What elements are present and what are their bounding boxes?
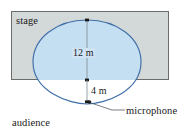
dimension-label-12m: 12 m [72, 48, 95, 58]
microphone-leader-line [91, 103, 126, 110]
stage-label: stage [16, 16, 38, 27]
audience-label: audience [12, 118, 50, 129]
dimension-tick-top [85, 19, 89, 22]
dimension-label-4m: 4 m [90, 86, 108, 96]
cardioid-stage-figure: stage 12 m 4 m microphone audience [0, 0, 188, 133]
microphone-label: microphone [126, 106, 177, 117]
